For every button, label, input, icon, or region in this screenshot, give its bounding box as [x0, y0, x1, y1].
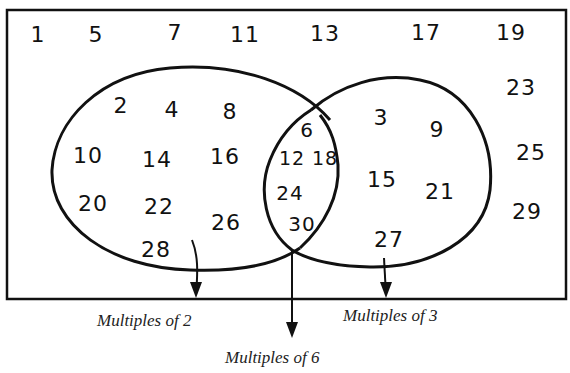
set-a-number: 8: [223, 101, 238, 123]
arrowhead-multiples-of-2-icon: [190, 282, 202, 298]
outside-number: 19: [496, 22, 526, 44]
label-multiples-of-3: Multiples of 3: [343, 307, 437, 324]
set-a-number: 10: [73, 145, 103, 167]
intersection-number: 30: [288, 214, 315, 234]
set-a-number: 28: [141, 239, 171, 261]
outside-number: 23: [506, 77, 536, 99]
intersection-number: 12: [279, 149, 305, 168]
outside-number: 13: [310, 23, 340, 45]
outside-number: 7: [168, 22, 183, 44]
venn-diagram: 1 5 7 11 13 17 19 23 25 29 2 4 8 10 14 1…: [0, 0, 570, 373]
set-a-number: 14: [142, 149, 172, 171]
intersection-number: 24: [276, 183, 303, 203]
set-a-number: 16: [210, 146, 240, 168]
outside-number: 11: [230, 24, 260, 46]
outside-number: 25: [516, 142, 546, 164]
set-multiples-of-2-ellipse: [52, 67, 330, 270]
outside-number: 17: [411, 22, 441, 44]
set-a-number: 20: [78, 193, 108, 215]
label-multiples-of-2: Multiples of 2: [97, 312, 191, 329]
outside-number: 1: [31, 24, 46, 46]
intersection-number: 6: [300, 120, 314, 140]
set-b-number: 15: [367, 169, 397, 191]
set-b-number: 3: [374, 107, 389, 129]
set-b-number: 21: [425, 181, 455, 203]
set-b-number: 27: [374, 229, 404, 251]
label-multiples-of-6: Multiples of 6: [225, 349, 319, 366]
set-a-number: 26: [211, 212, 241, 234]
arrowhead-multiples-of-3-icon: [380, 282, 392, 298]
set-a-number: 4: [165, 99, 180, 121]
set-a-number: 22: [144, 196, 174, 218]
set-a-number: 2: [114, 95, 129, 117]
outside-number: 5: [89, 24, 104, 46]
outside-number: 29: [512, 201, 542, 223]
set-b-number: 9: [430, 119, 445, 141]
arrowhead-multiples-of-6-icon: [286, 322, 298, 338]
intersection-number: 18: [312, 149, 338, 168]
